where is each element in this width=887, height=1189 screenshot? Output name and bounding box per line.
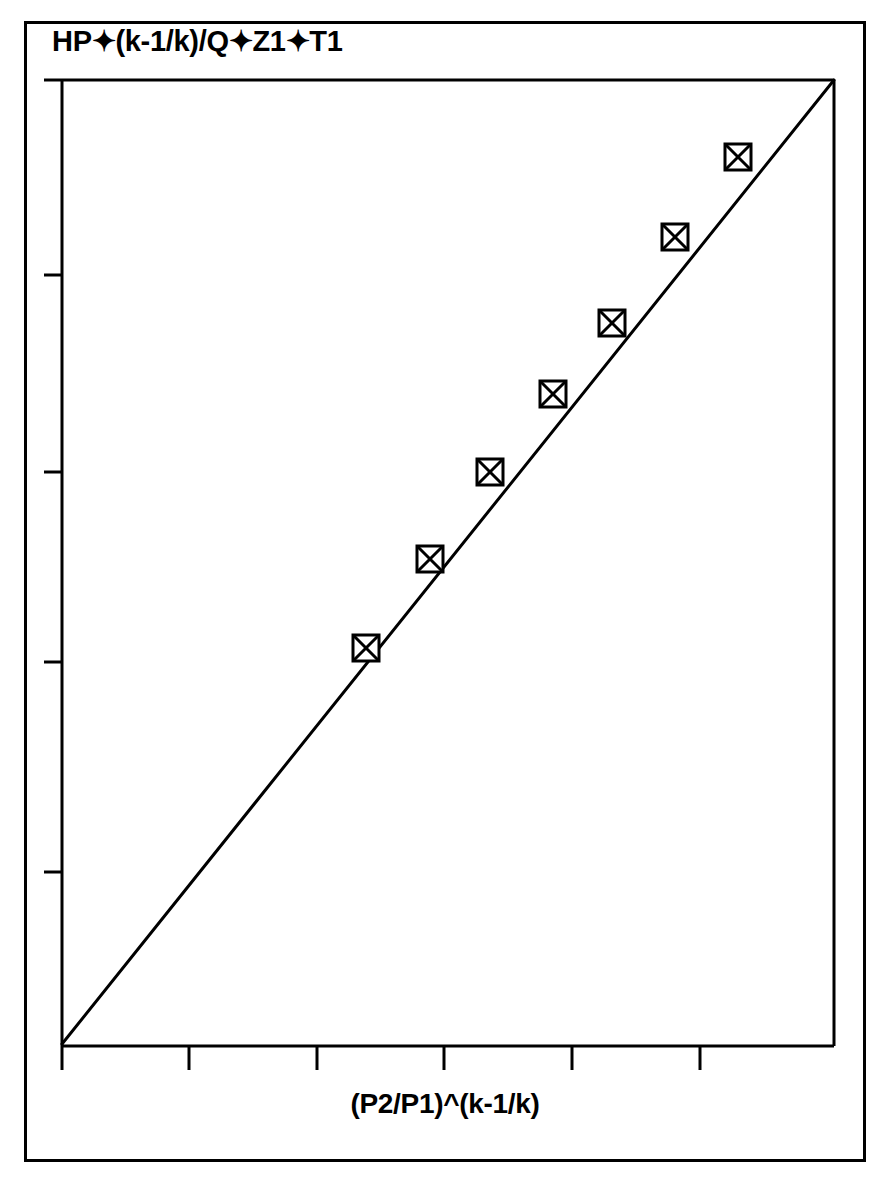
trend-line (62, 80, 834, 1044)
plot-area (0, 0, 887, 1189)
data-point-markers (353, 144, 751, 661)
y-axis-ticks (44, 80, 62, 872)
x-axis-ticks (62, 1046, 700, 1070)
x-axis-title: (P2/P1)^(k-1/k) (24, 1090, 866, 1118)
chart-svg (0, 0, 887, 1189)
data-point (725, 144, 751, 170)
data-point (417, 546, 443, 572)
data-point (353, 635, 379, 661)
data-point (599, 310, 625, 336)
data-point (477, 459, 503, 485)
data-point (662, 224, 688, 250)
data-point (540, 381, 566, 407)
